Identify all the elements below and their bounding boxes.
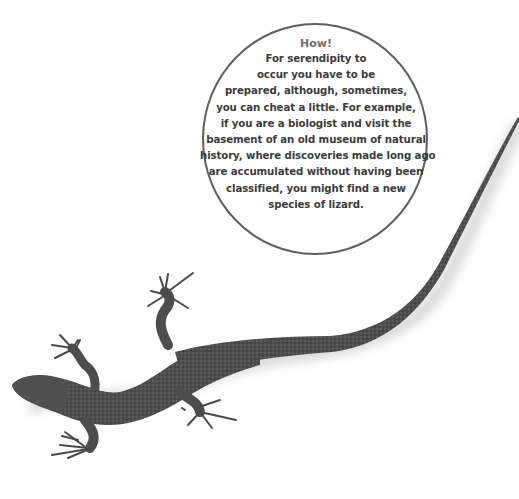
lizard-leg-left-rear xyxy=(85,420,94,448)
callout-line: basement of an old museum of natural xyxy=(200,132,432,148)
callout-line: prepared, although, sometimes, xyxy=(200,83,432,99)
callout-line: you can cheat a little. For example, xyxy=(200,100,432,116)
callout-line: if you are a biologist and visit the xyxy=(200,116,432,132)
callout-line: classified, you might find a new xyxy=(200,181,432,197)
lizard-leg-upper-front xyxy=(161,292,170,345)
callout-title: How! xyxy=(200,37,432,51)
callout-line: For serendipity to xyxy=(200,51,432,67)
callout-line: history, where discoveries made long ago xyxy=(200,148,432,164)
callout-line: occur you have to be xyxy=(200,67,432,83)
callout-line: species of lizard. xyxy=(200,197,432,213)
illustration-stage: How! For serendipity to occur you have t… xyxy=(0,0,519,499)
callout-text: How! For serendipity to occur you have t… xyxy=(200,37,432,213)
callout-line: are accumulated without having been xyxy=(200,164,432,180)
